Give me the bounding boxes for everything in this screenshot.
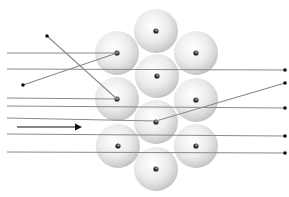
atom-middle-right xyxy=(174,78,218,122)
ray-endpoint-dot xyxy=(283,134,287,138)
atom-bottom xyxy=(134,147,178,191)
ray-endpoint-dot xyxy=(283,81,287,85)
ray-endpoint-dot xyxy=(283,151,287,155)
atom-lower-right xyxy=(174,124,218,168)
atom-top xyxy=(134,9,178,53)
ray-endpoint-dot xyxy=(45,34,49,38)
nucleus-icon xyxy=(115,143,120,148)
scattering-diagram xyxy=(0,0,289,197)
ray-endpoint-dot xyxy=(283,106,287,110)
atom-upper-right xyxy=(174,31,218,75)
nucleus-icon xyxy=(193,143,198,148)
nucleus-icon xyxy=(153,28,158,33)
nucleus-icon xyxy=(153,166,158,171)
nucleus-icon xyxy=(193,50,198,55)
atom-center-upper xyxy=(135,54,179,98)
atom-lower-left xyxy=(96,124,140,168)
nucleus-icon xyxy=(193,97,198,102)
ray-endpoint-dot xyxy=(283,68,287,72)
nucleus-icon xyxy=(154,73,159,78)
ray-endpoint-dot xyxy=(21,83,25,87)
